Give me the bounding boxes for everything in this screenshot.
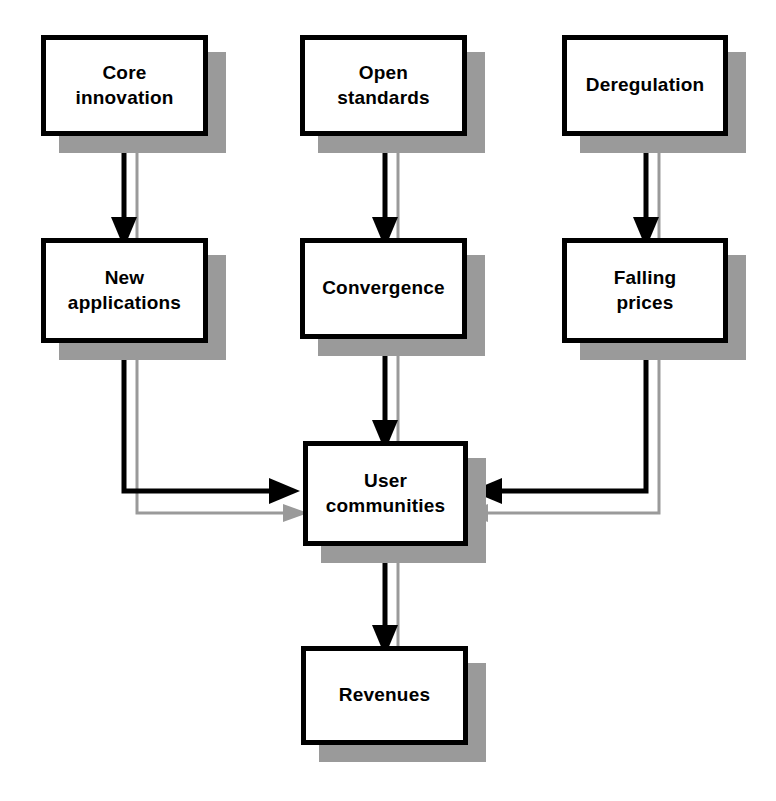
edge-main-stroke: [124, 343, 300, 504]
node-falling-prices[interactable]: Falling prices: [562, 238, 728, 343]
node-label-revenues: Revenues: [339, 683, 430, 707]
node-label-deregulation: Deregulation: [586, 73, 705, 97]
node-label-falling-prices: Falling prices: [614, 266, 677, 315]
node-label-convergence: Convergence: [322, 276, 445, 300]
edge-main-stroke: [471, 343, 646, 504]
edge-new-applications-to-user-communities: [124, 343, 308, 522]
node-new-applications[interactable]: New applications: [41, 238, 208, 343]
node-deregulation[interactable]: Deregulation: [562, 35, 728, 136]
node-open-standards[interactable]: Open standards: [300, 35, 467, 136]
edge-falling-prices-to-user-communities: [463, 343, 659, 522]
node-convergence[interactable]: Convergence: [300, 238, 467, 339]
flowchart-diagram: Core innovation Open standards Deregulat…: [0, 0, 776, 801]
node-user-communities[interactable]: User communities: [303, 441, 468, 546]
node-label-user-communities: User communities: [326, 469, 445, 518]
node-label-open-standards: Open standards: [337, 61, 430, 110]
node-revenues[interactable]: Revenues: [301, 646, 468, 745]
node-label-new-applications: New applications: [68, 266, 181, 315]
node-label-core-innovation: Core innovation: [75, 61, 173, 110]
node-core-innovation[interactable]: Core innovation: [41, 35, 208, 136]
